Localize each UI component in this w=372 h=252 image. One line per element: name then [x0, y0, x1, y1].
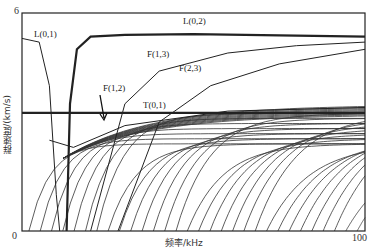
- label-l01: L(0,1): [34, 29, 57, 39]
- mode-curve: [29, 144, 365, 231]
- curve-l01: [22, 38, 60, 231]
- y-tick-max: 6: [14, 5, 19, 16]
- mode-curve: [357, 218, 365, 231]
- y-axis-label: 群速度/(km/s): [2, 95, 16, 154]
- mode-curve: [119, 139, 365, 231]
- higher-order-mode-curves: [29, 107, 365, 232]
- mode-curve: [346, 203, 365, 231]
- x-tick-max: 100: [352, 232, 367, 243]
- mode-curve: [289, 151, 365, 231]
- curve-l02: [67, 34, 365, 231]
- label-f23: F(2,3): [179, 63, 201, 73]
- mode-curve: [187, 144, 365, 231]
- mode-curve: [323, 165, 365, 231]
- arrow-icon: [100, 95, 107, 120]
- x-axis-label: 频率/kHz: [165, 236, 203, 249]
- label-t01: T(0,1): [143, 100, 166, 110]
- label-l02: L(0,2): [183, 16, 206, 26]
- mode-curve: [267, 152, 365, 231]
- y-tick-min: 0: [12, 230, 17, 241]
- label-f12: F(1,2): [103, 83, 125, 93]
- label-f13: F(1,3): [147, 49, 169, 59]
- mode-curve: [335, 176, 366, 231]
